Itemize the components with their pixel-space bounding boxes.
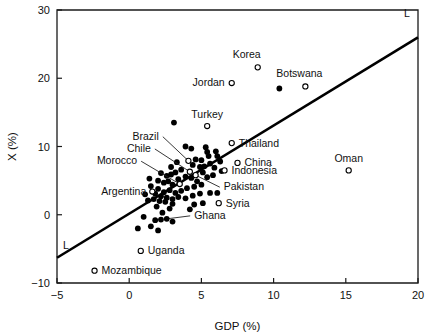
regression-line-label-start: L: [63, 239, 69, 251]
data-point[interactable]: [170, 182, 176, 188]
regression-line: [57, 37, 418, 257]
data-point[interactable]: [167, 187, 173, 193]
data-point-morocco[interactable]: [177, 181, 182, 186]
data-point[interactable]: [187, 206, 193, 212]
data-point[interactable]: [207, 190, 213, 196]
point-label-oman: Oman: [334, 152, 363, 164]
data-point[interactable]: [168, 164, 174, 170]
chart-svg: −505101520−100102030GDP (%)X (%)LLBrazil…: [0, 0, 429, 336]
data-point[interactable]: [199, 182, 205, 188]
data-point-oman[interactable]: [346, 168, 351, 173]
data-point[interactable]: [204, 174, 210, 180]
data-point[interactable]: [148, 223, 154, 229]
point-label-syria: Syria: [226, 197, 250, 209]
data-point[interactable]: [184, 185, 190, 191]
data-point[interactable]: [200, 170, 206, 176]
x-axis-title: GDP (%): [215, 320, 261, 332]
point-label-morocco: Morocco: [97, 154, 137, 166]
data-point[interactable]: [175, 194, 181, 200]
data-point[interactable]: [199, 157, 205, 163]
point-label-chile: Chile: [127, 142, 151, 154]
y-tick-label: 10: [38, 141, 50, 153]
y-tick-label: 30: [38, 4, 50, 16]
data-point[interactable]: [158, 217, 164, 223]
data-point[interactable]: [147, 176, 153, 182]
point-label-uganda: Uganda: [148, 244, 185, 256]
data-point[interactable]: [191, 202, 197, 208]
point-label-argentina: Argentina: [101, 185, 146, 197]
data-point[interactable]: [183, 195, 189, 201]
data-point-thailand[interactable]: [229, 140, 234, 145]
point-label-korea: Korea: [233, 48, 261, 60]
point-label-jordan: Jordan: [193, 76, 225, 88]
data-point[interactable]: [152, 217, 158, 223]
point-label-pakistan: Pakistan: [224, 180, 264, 192]
point-label-botswana: Botswana: [276, 67, 322, 79]
data-point[interactable]: [193, 157, 199, 163]
data-point-argentina[interactable]: [150, 189, 155, 194]
point-label-ghana: Ghana: [194, 209, 226, 221]
y-tick-label: 20: [38, 72, 50, 84]
data-point[interactable]: [148, 183, 154, 189]
data-point[interactable]: [157, 198, 163, 204]
y-tick-label: 0: [44, 209, 50, 221]
point-label-mozambique: Mozambique: [102, 264, 162, 276]
x-tick-label: 20: [412, 289, 424, 301]
data-point[interactable]: [207, 161, 213, 167]
data-point[interactable]: [154, 204, 160, 210]
data-point[interactable]: [141, 214, 147, 220]
data-point[interactable]: [190, 193, 196, 199]
data-point[interactable]: [217, 159, 223, 165]
point-label-brazil: Brazil: [133, 130, 159, 142]
point-label-indonesia: Indonesia: [232, 164, 278, 176]
x-tick-label: −5: [51, 289, 64, 301]
x-tick-label: 5: [198, 289, 204, 301]
data-point[interactable]: [151, 196, 157, 202]
data-point[interactable]: [167, 206, 173, 212]
data-point[interactable]: [206, 153, 212, 159]
point-label-thailand: Thailand: [239, 137, 279, 149]
data-point-uganda[interactable]: [138, 248, 143, 253]
data-point-chile[interactable]: [187, 169, 192, 174]
scatter-chart-figure: −505101520−100102030GDP (%)X (%)LLBrazil…: [0, 0, 429, 336]
data-point[interactable]: [200, 200, 206, 206]
data-point[interactable]: [162, 199, 168, 205]
data-point-mozambique[interactable]: [92, 268, 97, 273]
data-point[interactable]: [155, 178, 161, 184]
data-point[interactable]: [178, 188, 184, 194]
data-point[interactable]: [170, 219, 176, 225]
data-point[interactable]: [145, 198, 151, 204]
data-point[interactable]: [197, 191, 203, 197]
data-point-ghana[interactable]: [164, 216, 170, 222]
x-tick-label: 10: [267, 289, 279, 301]
data-point[interactable]: [276, 86, 282, 92]
data-point[interactable]: [155, 228, 161, 234]
data-point[interactable]: [201, 163, 207, 169]
data-point[interactable]: [135, 226, 141, 232]
data-point[interactable]: [211, 165, 217, 171]
x-tick-label: 15: [340, 289, 352, 301]
leader-line: [167, 216, 190, 219]
data-point[interactable]: [171, 120, 177, 126]
data-point-syria[interactable]: [216, 201, 221, 206]
point-label-turkey: Turkey: [191, 108, 223, 120]
data-point-pakistan[interactable]: [193, 173, 198, 178]
data-point-turkey[interactable]: [205, 123, 210, 128]
data-point[interactable]: [183, 174, 189, 180]
data-point[interactable]: [214, 153, 220, 159]
data-point-jordan[interactable]: [229, 80, 234, 85]
data-point-korea[interactable]: [255, 65, 260, 70]
y-tick-label: −10: [31, 277, 50, 289]
data-point[interactable]: [188, 146, 194, 152]
x-tick-label: 0: [126, 289, 132, 301]
data-point[interactable]: [214, 190, 220, 196]
data-point[interactable]: [160, 210, 166, 216]
regression-line-label-end: L: [404, 7, 410, 19]
data-point-indonesia[interactable]: [222, 168, 227, 173]
data-point[interactable]: [191, 184, 197, 190]
data-point[interactable]: [210, 172, 216, 178]
data-point[interactable]: [183, 144, 189, 150]
data-point-brazil[interactable]: [186, 158, 191, 163]
y-axis-title: X (%): [6, 132, 18, 161]
data-point-botswana[interactable]: [303, 84, 308, 89]
